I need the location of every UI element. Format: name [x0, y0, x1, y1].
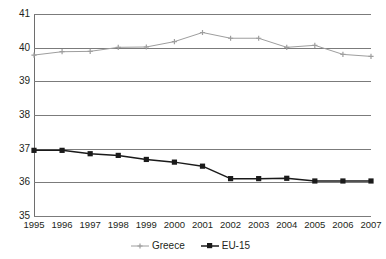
data-point-marker — [144, 44, 149, 49]
y-axis-tick-labels: 41403938373635 — [0, 14, 30, 216]
data-point-marker — [256, 176, 261, 181]
data-point-marker — [284, 45, 289, 50]
y-tick-label: 39 — [4, 76, 30, 86]
data-point-marker — [284, 176, 289, 181]
legend-marker-icon — [201, 241, 219, 251]
data-point-marker — [88, 49, 93, 54]
data-point-marker — [172, 160, 177, 165]
y-tick-label: 41 — [4, 9, 30, 19]
data-point-marker — [59, 49, 64, 54]
series-layer — [34, 14, 371, 216]
legend-marker-icon — [131, 241, 149, 251]
data-point-marker — [368, 54, 373, 59]
y-tick-label: 38 — [4, 110, 30, 120]
data-point-marker — [200, 30, 205, 35]
data-point-marker — [172, 39, 177, 44]
data-point-marker — [256, 36, 261, 41]
data-point-marker — [312, 178, 317, 183]
data-point-marker — [312, 43, 317, 48]
x-tick-label: 2007 — [354, 219, 386, 231]
data-point-marker — [200, 164, 205, 169]
gridline-35 — [34, 216, 371, 217]
data-point-marker — [59, 148, 64, 153]
legend-label: Greece — [152, 240, 185, 252]
legend-item-greece[interactable]: Greece — [131, 240, 185, 252]
data-point-marker — [144, 157, 149, 162]
data-point-marker — [228, 36, 233, 41]
data-point-marker — [228, 176, 233, 181]
legend-item-eu-15[interactable]: EU-15 — [201, 240, 250, 252]
x-axis-tick-labels: 1995199619971998199920002001200220032004… — [34, 219, 371, 233]
chart-legend: GreeceEU-15 — [0, 238, 381, 254]
y-tick-label: 37 — [4, 144, 30, 154]
legend-label: EU-15 — [222, 240, 250, 252]
data-point-marker — [31, 148, 36, 153]
data-point-marker — [368, 178, 373, 183]
series-eu-15 — [31, 148, 373, 184]
y-tick-label: 40 — [4, 43, 30, 53]
data-point-marker — [116, 45, 121, 50]
y-tick-label: 36 — [4, 177, 30, 187]
series-line — [34, 33, 371, 57]
data-point-marker — [340, 52, 345, 57]
data-point-marker — [31, 52, 36, 57]
data-point-marker — [116, 153, 121, 158]
series-greece — [31, 30, 373, 59]
data-point-marker — [88, 151, 93, 156]
data-point-marker — [340, 178, 345, 183]
